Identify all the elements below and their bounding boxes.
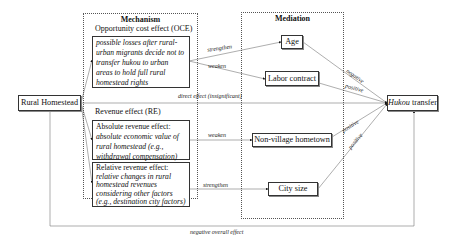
absolute-heading: Absolute revenue effect: [96, 122, 186, 132]
oce-line: urban migrants decide not to [96, 48, 186, 58]
hukou-label: Hukou [388, 98, 410, 108]
age-node: Age [281, 35, 303, 49]
mediation-title: Mediation [241, 14, 344, 23]
oce-box: possible losses after rural- urban migra… [92, 36, 190, 88]
connector-lines [0, 0, 455, 244]
hukou-transfer-node: Hukou transfer [387, 95, 438, 111]
absolute-line: rural homestead (e.g., [96, 142, 186, 152]
city-size-node: City size [268, 182, 318, 196]
rural-homestead-node: Rural Homestead [18, 95, 81, 111]
relative-revenue-box: Relative revenue effect: relative change… [92, 162, 190, 207]
mechanism-title: Mechanism [83, 15, 198, 24]
re-heading: Revenue effect (RE) [95, 107, 161, 116]
oce-line: transfer hukou to urban [96, 58, 186, 68]
edge-label-strengthen-citysize: strengthen [203, 182, 228, 188]
oce-line: areas to hold full rural [96, 68, 186, 78]
absolute-revenue-box: Absolute revenue effect: absolute econom… [92, 120, 190, 160]
absolute-line: absolute economic value of [96, 132, 186, 142]
oce-line: possible losses after rural- [96, 38, 186, 48]
oce-line: homestead rights [96, 78, 186, 88]
absolute-line: withdrawal compensation) [96, 152, 186, 162]
labor-contract-node: Labor contract [265, 71, 319, 86]
edge-label-direct: direct effect (insignificant) [178, 93, 242, 99]
edge-label-weaken-labor: weaken [208, 63, 226, 69]
edge-label-weaken-nonvillage: weaken [208, 132, 226, 138]
non-village-hometown-node: Non-village hometown [252, 133, 332, 147]
relative-line: (e.g., destination city factors) [96, 198, 186, 207]
transfer-label: transfer [410, 98, 437, 108]
edge-label-overall: negative overall effect [190, 229, 243, 235]
oce-heading: Opportunity cost effect (OCE) [95, 24, 192, 33]
